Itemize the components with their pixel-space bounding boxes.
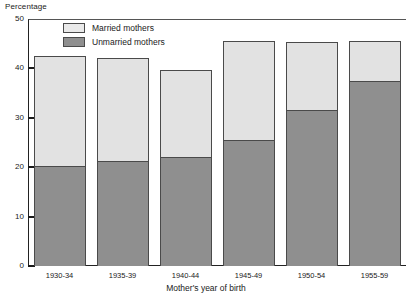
bar-group-1935-39 (97, 58, 149, 266)
bar-group-1930-34 (34, 56, 86, 266)
y-tick-label: 20 (4, 162, 24, 171)
bar-segment-unmarried (286, 110, 338, 266)
x-axis-title: Mother's year of birth (0, 283, 412, 293)
bar-segment-married (223, 41, 275, 140)
y-axis-title: Percentage (5, 2, 47, 11)
x-label-1945-49: 1945-49 (219, 271, 279, 280)
bar-segment-unmarried (349, 81, 401, 266)
legend-label-married: Married mothers (92, 23, 154, 33)
x-label-1930-34: 1930-34 (30, 271, 90, 280)
x-label-1935-39: 1935-39 (93, 271, 153, 280)
bar-group-1940-44 (160, 70, 212, 266)
y-tick-label: 30 (4, 113, 24, 122)
x-label-1950-54: 1950-54 (282, 271, 342, 280)
bar-segment-unmarried (223, 140, 275, 266)
x-label-1955-59: 1955-59 (345, 271, 405, 280)
x-label-1940-44: 1940-44 (156, 271, 216, 280)
bar-group-1945-49 (223, 41, 275, 266)
bar-segment-married (286, 42, 338, 110)
bar-segment-unmarried (97, 161, 149, 266)
legend-swatch-unmarried-icon (63, 37, 85, 47)
bar-segment-married (160, 70, 212, 157)
y-tick-label: 40 (4, 63, 24, 72)
y-tick-label: 10 (4, 212, 24, 221)
bar-group-1950-54 (286, 42, 338, 266)
legend-label-unmarried: Unmarried mothers (92, 37, 165, 47)
legend-swatch-married-icon (63, 23, 85, 33)
bar-segment-unmarried (160, 157, 212, 266)
bar-group-1955-59 (349, 41, 401, 266)
bar-segment-unmarried (34, 166, 86, 266)
bar-segment-married (349, 41, 401, 81)
chart-legend: Married mothers Unmarried mothers (63, 21, 165, 49)
bars-layer (28, 19, 406, 266)
legend-item-married: Married mothers (63, 21, 165, 34)
y-tick-label: 50 (4, 14, 24, 23)
bar-segment-married (97, 58, 149, 162)
stacked-bar-chart: Percentage 01020304050 1930-341935-39194… (0, 0, 412, 300)
legend-item-unmarried: Unmarried mothers (63, 35, 165, 48)
bar-segment-married (34, 56, 86, 166)
y-tick-label: 0 (4, 261, 24, 270)
